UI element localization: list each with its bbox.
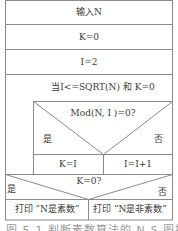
final-yes-label: 是 bbox=[7, 184, 16, 195]
inner-yes-label: 是 bbox=[43, 134, 52, 145]
loop-condition: 当I<=SQRT(N) 和 K=0 bbox=[51, 82, 154, 93]
init-i-step: I=2 bbox=[81, 57, 98, 68]
inner-no-action: I=I+1 bbox=[124, 159, 152, 170]
ns-diagram: 输入N K=0 I=2 当I<=SQRT(N) 和 K=0 Mod(N, I )… bbox=[0, 0, 178, 231]
init-k-step: K=0 bbox=[79, 32, 99, 43]
final-yes-action: 打印 “N是素数” bbox=[15, 204, 80, 215]
inner-decision-condition: Mod(N, I )=0? bbox=[71, 108, 136, 119]
final-no-action: 打印 “N是非素数” bbox=[93, 204, 167, 215]
final-no-label: 否 bbox=[158, 187, 167, 198]
inner-no-label: 否 bbox=[154, 134, 163, 145]
figure-caption: 图 5-1 判断素数算法的 N-S 图描述 bbox=[6, 221, 178, 231]
inner-yes-action: K=I bbox=[59, 159, 77, 170]
final-decision-condition: K=0? bbox=[77, 176, 102, 187]
input-step: 输入N bbox=[76, 7, 102, 18]
